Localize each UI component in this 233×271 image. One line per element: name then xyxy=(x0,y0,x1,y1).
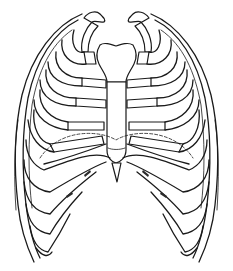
outer-ribs-left xyxy=(15,14,82,262)
anterior-ribs-right xyxy=(123,30,209,255)
anterior-ribs-left xyxy=(24,30,110,255)
outer-ribs-right xyxy=(151,14,218,262)
sternum xyxy=(97,43,136,182)
rib-cage-drawing xyxy=(0,0,233,271)
rib-cage-illustration xyxy=(0,0,233,271)
